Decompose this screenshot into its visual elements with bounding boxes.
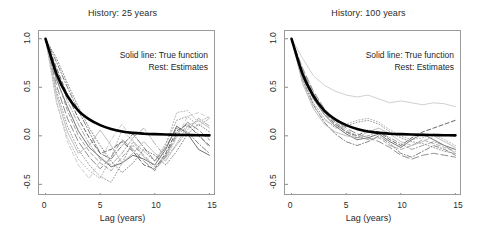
plot-area: Solid line: True function Rest: Estimate… xyxy=(284,30,461,195)
annotation-line-2: Rest: Estimates xyxy=(120,61,208,73)
panel-history-100: History: 100 years Solid line: True func… xyxy=(246,0,491,237)
xtick-label: 10 xyxy=(148,200,164,210)
annotation-line-2: Rest: Estimates xyxy=(366,61,454,73)
xtick-label: 15 xyxy=(450,200,466,210)
panel-title: History: 25 years xyxy=(0,8,245,18)
xtick-label: 0 xyxy=(37,200,51,210)
x-axis-label: Lag (years) xyxy=(0,213,245,223)
annotation-line-1: Solid line: True function xyxy=(366,49,454,61)
xtick-label: 0 xyxy=(283,200,297,210)
panel-title: History: 100 years xyxy=(246,8,491,18)
annotation-line-1: Solid line: True function xyxy=(120,49,208,61)
plot-annotation: Solid line: True function Rest: Estimate… xyxy=(120,49,208,73)
panel-history-25: History: 25 years Solid line: True funct… xyxy=(0,0,245,237)
ytick-label: 1.0 xyxy=(22,18,32,44)
ytick-label: -0.5 xyxy=(22,161,32,189)
ytick-label: -0.5 xyxy=(268,161,278,189)
figure-root: History: 25 years Solid line: True funct… xyxy=(0,0,491,237)
ytick-label: 0.0 xyxy=(268,114,278,140)
xtick-label: 15 xyxy=(204,200,220,210)
xtick-label: 10 xyxy=(394,200,410,210)
xtick-label: 5 xyxy=(339,200,353,210)
plot-annotation: Solid line: True function Rest: Estimate… xyxy=(366,49,454,73)
x-axis-label: Lag (years) xyxy=(246,213,491,223)
xtick-label: 5 xyxy=(93,200,107,210)
ytick-label: 0.5 xyxy=(268,66,278,92)
ytick-label: 1.0 xyxy=(268,18,278,44)
ytick-label: 0.5 xyxy=(22,66,32,92)
plot-area: Solid line: True function Rest: Estimate… xyxy=(38,30,215,195)
ytick-label: 0.0 xyxy=(22,114,32,140)
